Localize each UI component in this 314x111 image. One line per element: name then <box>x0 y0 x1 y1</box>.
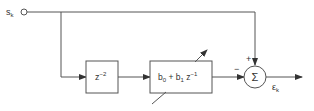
minus-sign: − <box>234 64 239 74</box>
input-label: sk <box>6 7 15 18</box>
branch-to-delay <box>61 12 86 77</box>
block-diagram: sk z−2 b0 + b1 z−1 Σ + − εk <box>0 0 314 111</box>
output-label: εk <box>272 82 280 93</box>
delay-block <box>86 61 118 93</box>
summing-symbol: Σ <box>252 71 259 83</box>
input-terminal <box>21 9 27 15</box>
plus-sign: + <box>246 54 251 64</box>
adaptation-arrow-head-segment <box>195 50 207 62</box>
adaptation-arrow-icon <box>152 92 166 104</box>
